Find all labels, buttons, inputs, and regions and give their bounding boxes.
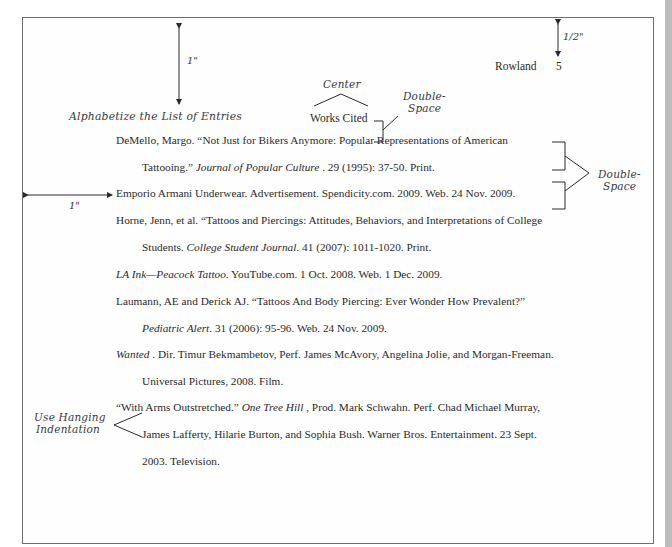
right-edge-strip	[665, 0, 672, 547]
entry-line: Laumann, AE and Derick AJ. “Tattoos And …	[116, 295, 525, 307]
entry-line: “With Arms Outstretched.” One Tree Hill …	[116, 401, 540, 413]
left-margin-label: 1"	[69, 200, 80, 211]
entry-line: Horne, Jenn, et al. “Tattoos and Piercin…	[116, 214, 542, 226]
document-page	[22, 17, 654, 544]
entry-line: James Lafferty, Hilarie Burton, and Soph…	[142, 428, 537, 440]
double-space-entries-label-1: Double-	[598, 168, 641, 180]
works-cited-title: Works Cited	[310, 112, 368, 124]
header-surname: Rowland	[495, 60, 537, 72]
entry-line: LA Ink—Peacock Tattoo. YouTube.com. 1 Oc…	[116, 268, 442, 280]
center-label: Center	[323, 78, 361, 90]
double-space-title-label-2: Space	[408, 102, 441, 114]
top-margin-label: 1"	[187, 55, 198, 66]
header-page-number: 5	[556, 60, 562, 72]
entry-line: Pediatric Alert. 31 (2006): 95-96. Web. …	[142, 322, 387, 334]
double-space-entries-label-2: Space	[603, 180, 636, 192]
entry-line: Universal Pictures, 2008. Film.	[142, 375, 283, 387]
entry-line: 2003. Television.	[142, 455, 220, 467]
double-space-title-label-1: Double-	[403, 90, 446, 102]
entry-line: Students. College Student Journal. 41 (2…	[142, 241, 431, 253]
entry-line: DeMello, Margo. “Not Just for Bikers Any…	[116, 134, 508, 146]
entry-line: Wanted . Dir. Timur Bekmambetov, Perf. J…	[116, 348, 554, 360]
header-margin-label: 1/2"	[563, 31, 584, 42]
entry-line: Emporio Armani Underwear. Advertisement.…	[116, 187, 515, 199]
hanging-label-2: Indentation	[36, 423, 100, 435]
alphabetize-label: Alphabetize the List of Entries	[69, 110, 242, 123]
entry-line: Tattooing.” Journal of Popular Culture .…	[142, 161, 435, 173]
hanging-label-1: Use Hanging	[34, 411, 106, 423]
